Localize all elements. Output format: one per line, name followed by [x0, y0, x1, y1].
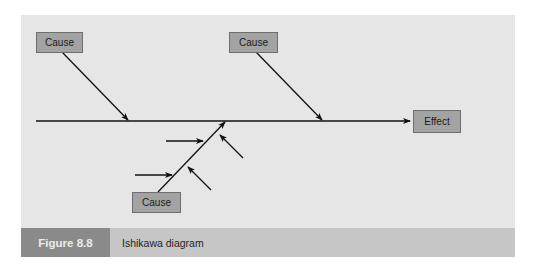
figure-caption-bar: Figure 8.8 Ishikawa diagram: [21, 228, 515, 257]
bone-top-left: [62, 52, 128, 120]
cause-box-top-right: Cause: [229, 32, 278, 53]
figure-title: Ishikawa diagram: [110, 237, 204, 249]
bone-top-right: [256, 52, 322, 120]
bone-bottom: [158, 122, 225, 192]
effect-box: Effect: [413, 110, 461, 133]
sub-cause-arrow-3: [220, 135, 243, 158]
sub-cause-arrow-4: [188, 167, 211, 190]
cause-box-bottom: Cause: [132, 192, 181, 213]
cause-box-top-left: Cause: [36, 32, 83, 53]
figure-number: Figure 8.8: [21, 228, 110, 257]
